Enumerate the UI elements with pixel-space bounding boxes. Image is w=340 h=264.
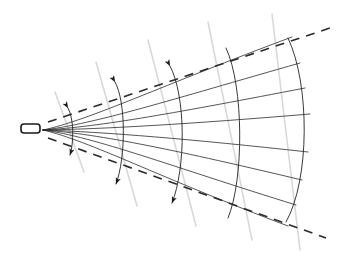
diagram-canvas: Expanding wavefront cone diagram A line … bbox=[0, 0, 340, 264]
figure-svg: Expanding wavefront cone diagram A line … bbox=[0, 0, 340, 264]
